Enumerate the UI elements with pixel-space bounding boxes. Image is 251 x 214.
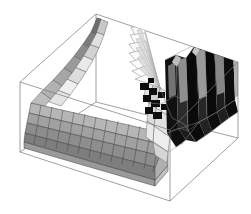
surface-plot-figure: [0, 0, 251, 214]
surface-right-spikes: [165, 41, 238, 147]
surface-front-plateau: [24, 103, 168, 186]
surface-mesh: [24, 18, 238, 186]
surface-plot-canvas: [0, 0, 251, 214]
surface-left-ridge: [31, 18, 108, 110]
